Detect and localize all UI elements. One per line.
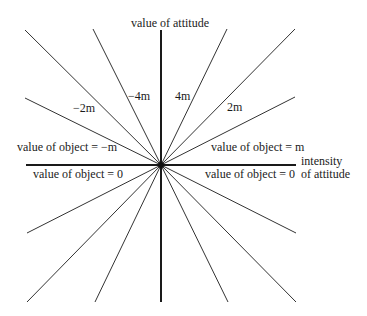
label-value-neg-m: value of object = −m (17, 140, 118, 154)
ray-lower-right-mid (161, 165, 296, 302)
label-pos-2m: 2m (227, 100, 243, 114)
ray-lower-right-steep (161, 165, 228, 302)
vertical-axis-label: value of attitude (131, 16, 209, 30)
label-neg-4m: −4m (128, 89, 151, 103)
label-pos-4m: 4m (175, 89, 191, 103)
label-value-zero-left: value of object = 0 (33, 167, 123, 181)
attitude-diagram: value of attitude −4m 4m −2m 2m value of… (0, 0, 367, 316)
ray-lower-left-steep (95, 165, 161, 302)
horizontal-axis-label-line2: of attitude (301, 167, 350, 181)
horizontal-axis-label-line1: intensity (301, 154, 342, 168)
label-value-pos-m: value of object = m (211, 140, 305, 154)
origin-point (158, 162, 164, 168)
ray-lower-left-mid (27, 165, 161, 302)
label-neg-2m: −2m (73, 101, 96, 115)
label-value-zero-right: value of object = 0 (205, 167, 295, 181)
